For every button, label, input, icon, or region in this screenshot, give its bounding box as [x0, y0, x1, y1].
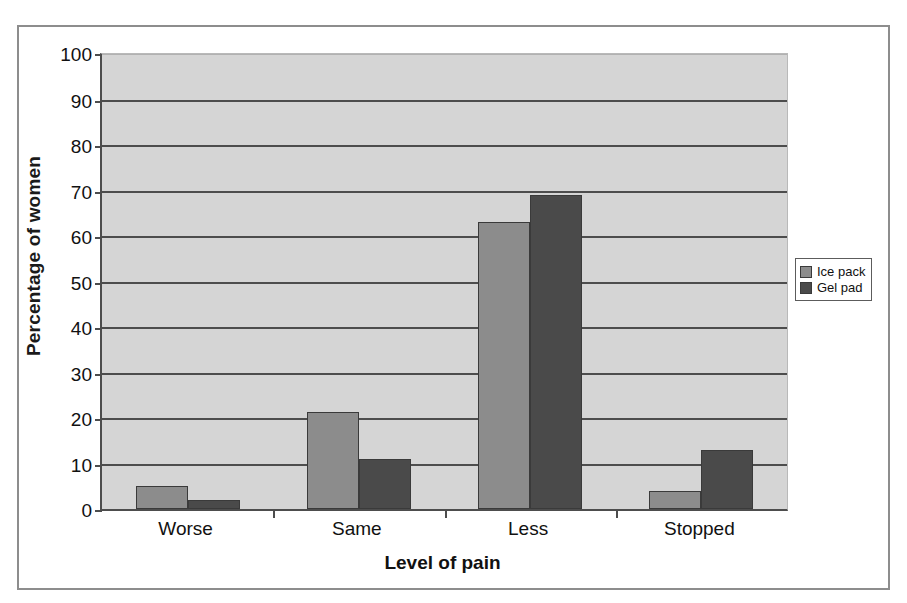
y-tick-label-70: 70: [71, 182, 92, 204]
y-tick-mark-40: [95, 328, 102, 330]
y-tick-mark-0: [95, 510, 102, 512]
bar-less-gel-pad[interactable]: [530, 195, 582, 509]
y-tick-label-60: 60: [71, 227, 92, 249]
legend-swatch-icon-1: [800, 282, 812, 294]
plot-area: 1009080706050403020100: [100, 53, 788, 511]
x-separator-tick-1: [445, 510, 447, 518]
x-separator-tick-2: [616, 510, 618, 518]
y-tick-mark-70: [95, 192, 102, 194]
bar-group-less: [445, 54, 616, 509]
y-tick-label-30: 30: [71, 364, 92, 386]
bar-group-stopped: [616, 54, 787, 509]
y-tick-label-90: 90: [71, 91, 92, 113]
x-tick-label-same: Same: [271, 518, 442, 540]
y-tick-mark-10: [95, 465, 102, 467]
y-tick-mark-80: [95, 146, 102, 148]
y-tick-mark-90: [95, 101, 102, 103]
y-tick-label-10: 10: [71, 455, 92, 477]
bar-chart: Percentage of women 10090807060504030201…: [0, 0, 907, 603]
y-tick-mark-50: [95, 283, 102, 285]
y-tick-mark-60: [95, 237, 102, 239]
legend-label-1: Gel pad: [817, 280, 863, 295]
bar-stopped-gel-pad[interactable]: [701, 450, 753, 509]
bar-less-ice-pack[interactable]: [478, 222, 530, 509]
y-tick-label-20: 20: [71, 409, 92, 431]
x-axis-title: Level of pain: [100, 552, 785, 574]
y-axis-title: Percentage of women: [23, 126, 45, 386]
bar-same-ice-pack[interactable]: [307, 412, 359, 509]
bar-worse-ice-pack[interactable]: [136, 486, 188, 509]
x-axis-tick-labels: WorseSameLessStopped: [100, 518, 785, 540]
x-tick-label-less: Less: [443, 518, 614, 540]
bar-stopped-ice-pack[interactable]: [649, 491, 701, 509]
legend-item-gel-pad[interactable]: Gel pad: [800, 280, 865, 295]
y-tick-label-50: 50: [71, 273, 92, 295]
y-tick-label-0: 0: [81, 500, 92, 522]
bar-groups: [102, 54, 787, 509]
x-tick-label-stopped: Stopped: [614, 518, 785, 540]
bar-group-worse: [102, 54, 273, 509]
y-tick-mark-20: [95, 419, 102, 421]
y-tick-label-40: 40: [71, 318, 92, 340]
bar-same-gel-pad[interactable]: [359, 459, 411, 509]
legend-item-ice-pack[interactable]: Ice pack: [800, 264, 865, 279]
chart-legend: Ice packGel pad: [795, 258, 872, 301]
bar-group-same: [273, 54, 444, 509]
y-tick-label-80: 80: [71, 136, 92, 158]
legend-swatch-icon-0: [800, 266, 812, 278]
bar-worse-gel-pad[interactable]: [188, 500, 240, 509]
x-separator-tick-0: [273, 510, 275, 518]
x-tick-label-worse: Worse: [100, 518, 271, 540]
y-tick-mark-100: [95, 54, 102, 56]
legend-label-0: Ice pack: [817, 264, 865, 279]
y-tick-mark-30: [95, 374, 102, 376]
y-tick-label-100: 100: [60, 44, 92, 66]
